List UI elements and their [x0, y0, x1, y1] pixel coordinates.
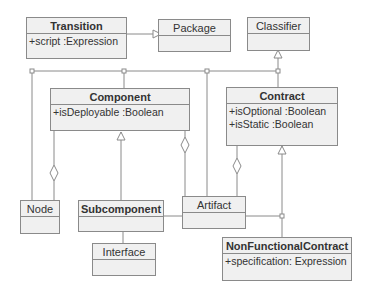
- class-transition[interactable]: Transition +script :Expression: [26, 17, 127, 59]
- class-artifact[interactable]: Artifact: [182, 196, 246, 229]
- class-component[interactable]: Component +isDeployable :Boolean: [50, 88, 190, 131]
- class-attribute: +specification: Expression: [223, 253, 351, 269]
- class-name: Artifact: [183, 197, 245, 212]
- class-name: Classifier: [248, 18, 309, 33]
- class-name: NonFunctionalContract: [223, 238, 351, 253]
- class-name: Transition: [27, 18, 126, 33]
- class-attribute: +isDeployable :Boolean: [51, 104, 189, 120]
- class-interface[interactable]: Interface: [92, 243, 156, 276]
- class-name: Subcomponent: [79, 201, 163, 216]
- class-node[interactable]: Node: [20, 200, 60, 234]
- class-classifier[interactable]: Classifier: [247, 17, 310, 51]
- class-name: Node: [21, 201, 59, 216]
- attribute-compartment: [21, 216, 59, 223]
- class-name: Interface: [93, 244, 155, 259]
- class-subcomponent[interactable]: Subcomponent: [78, 200, 164, 232]
- class-attribute: +isStatic :Boolean: [229, 118, 335, 131]
- class-package[interactable]: Package: [158, 19, 231, 52]
- class-attribute: +isOptional :Boolean: [229, 105, 335, 118]
- class-contract[interactable]: Contract +isOptional :Boolean +isStatic …: [226, 87, 338, 146]
- attribute-compartment: [79, 216, 163, 223]
- class-name: Component: [51, 89, 189, 104]
- attribute-compartment: [183, 212, 245, 219]
- attribute-compartment: [159, 35, 230, 42]
- class-name: Contract: [227, 88, 337, 103]
- attribute-compartment: [248, 33, 309, 40]
- class-nonfunctionalcontract[interactable]: NonFunctionalContract +specification: Ex…: [222, 237, 352, 281]
- class-name: Package: [159, 20, 230, 35]
- attribute-compartment: [93, 259, 155, 266]
- class-attribute: +script :Expression: [27, 33, 126, 49]
